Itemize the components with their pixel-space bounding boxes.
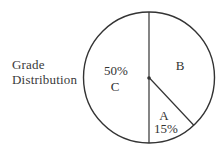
slice-a-percent: 15% [154, 121, 178, 136]
slice-c-label: C [111, 79, 120, 94]
slice-c-percent: 50% [104, 63, 128, 78]
pie-chart: 50% C B A 15% [0, 0, 222, 153]
slice-b-label: B [176, 58, 185, 73]
center-dot [147, 76, 151, 80]
